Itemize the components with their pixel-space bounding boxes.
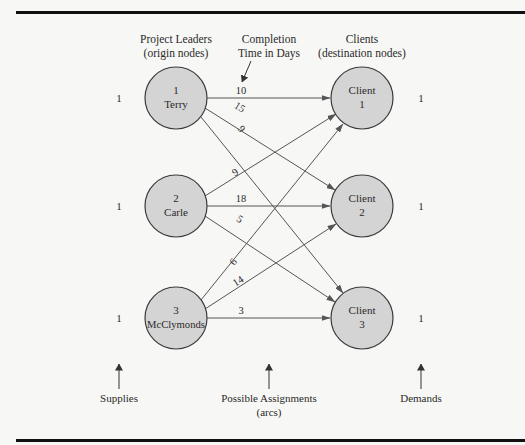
origin-node-id: 3	[173, 304, 179, 316]
assignment-network-diagram: Project Leaders (origin nodes) Completio…	[0, 0, 525, 445]
supply-terry: 1	[116, 92, 122, 104]
footer-assignments-line2: (arcs)	[256, 406, 281, 419]
origin-node-name: Terry	[164, 98, 188, 110]
destination-node-client1: Client 1	[331, 67, 393, 129]
header-destinations-line2: (destination nodes)	[318, 47, 406, 60]
destination-node-id: 3	[359, 318, 365, 330]
top-border	[16, 11, 525, 14]
arc-label-mcclymonds-client2: 14	[231, 273, 246, 288]
arc-label-terry-client1: 10	[236, 85, 247, 96]
origin-node-mcclymonds: 3 McClymonds	[145, 287, 207, 349]
demand-client2: 1	[418, 200, 424, 212]
header-destinations-line1: Clients	[346, 33, 379, 45]
arc-label-carle-client1: 9	[230, 166, 240, 178]
origin-node-terry: 1 Terry	[145, 67, 207, 129]
bottom-border	[16, 439, 525, 442]
destination-node-label: Client	[349, 192, 376, 204]
arc-label-terry-client2: 15	[232, 100, 247, 115]
header-origins: Project Leaders (origin nodes)	[140, 33, 212, 60]
destination-node-client2: Client 2	[331, 175, 393, 237]
destination-node-id: 2	[359, 206, 365, 218]
arc-label-terry-client3: 9	[236, 123, 248, 134]
footer-assignments-line1: Possible Assignments	[221, 392, 317, 404]
demand-client3: 1	[418, 312, 424, 324]
arc-label-carle-client2: 18	[236, 193, 247, 204]
origin-node-carle: 2 Carle	[145, 175, 207, 237]
destination-node-id: 1	[359, 98, 365, 110]
supply-values: 1 1 1	[116, 92, 122, 324]
arc-terry-client3	[201, 117, 343, 293]
header-origins-line2: (origin nodes)	[144, 47, 209, 60]
origin-node-id: 2	[173, 192, 179, 204]
header-destinations: Clients (destination nodes)	[318, 33, 406, 60]
footer-supplies-label: Supplies	[100, 392, 138, 404]
arc-carle-client1	[205, 114, 336, 196]
arc-terry-client2	[205, 108, 335, 190]
footer-labels: Supplies Possible Assignments (arcs) Dem…	[100, 392, 442, 419]
footer-demands-label: Demands	[400, 392, 442, 404]
cost-pointer-arrow	[242, 61, 251, 82]
arc-label-carle-client3: 5	[235, 213, 245, 225]
origin-node-name: McClymonds	[147, 318, 205, 330]
header-cost-line1: Completion	[242, 33, 297, 46]
destination-node-label: Client	[349, 84, 376, 96]
demand-client1: 1	[418, 92, 424, 104]
demand-values: 1 1 1	[418, 92, 424, 324]
origin-node-name: Carle	[164, 206, 188, 218]
destination-node-label: Client	[349, 304, 376, 316]
footer-pointers	[119, 364, 421, 389]
supply-mcclymonds: 1	[116, 312, 122, 324]
arcs	[201, 98, 343, 318]
supply-carle: 1	[116, 200, 122, 212]
arc-label-mcclymonds-client3: 3	[238, 305, 243, 316]
arc-mcclymonds-client2	[205, 224, 336, 309]
arc-labels: 10 15 9 9 18 5 6 14 3	[227, 85, 247, 316]
destination-node-client3: Client 3	[331, 287, 393, 349]
header-cost-line2: Time in Days	[238, 47, 301, 60]
header-origins-line1: Project Leaders	[140, 33, 212, 46]
origin-node-id: 1	[173, 84, 179, 96]
header-cost: Completion Time in Days	[238, 33, 301, 82]
